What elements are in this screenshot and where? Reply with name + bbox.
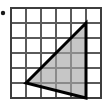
grid-triangle-figure <box>0 0 108 107</box>
bullet-dot-icon <box>1 11 5 15</box>
figure-container <box>0 0 108 107</box>
